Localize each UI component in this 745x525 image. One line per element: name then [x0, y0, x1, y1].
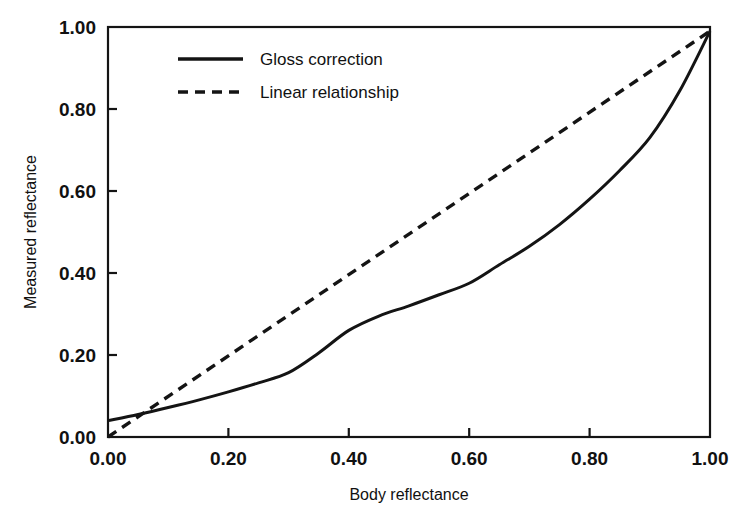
x-tick-label-1: 0.20 [210, 448, 247, 469]
line-chart: 0.000.200.400.600.801.00 0.000.200.400.6… [0, 0, 745, 525]
x-axis-title: Body reflectance [349, 486, 468, 503]
legend-label-gloss-correction: Gloss correction [260, 50, 383, 69]
y-axis-title: Measured reflectance [22, 155, 39, 309]
x-tick-label-3: 0.60 [451, 448, 488, 469]
y-tick-label-0: 0.00 [59, 427, 96, 448]
y-tick-label-3: 0.60 [59, 181, 96, 202]
y-tick-label-5: 1.00 [59, 17, 96, 38]
chart-figure: 0.000.200.400.600.801.00 0.000.200.400.6… [0, 0, 745, 525]
y-tick-label-4: 0.80 [59, 99, 96, 120]
y-tick-label-2: 0.40 [59, 263, 96, 284]
x-tick-label-4: 0.80 [571, 448, 608, 469]
y-tick-label-1: 0.20 [59, 345, 96, 366]
x-tick-label-0: 0.00 [90, 448, 127, 469]
legend-label-linear-relationship: Linear relationship [260, 83, 399, 102]
chart-background [0, 0, 745, 525]
x-tick-label-2: 0.40 [330, 448, 367, 469]
x-tick-label-5: 1.00 [692, 448, 729, 469]
